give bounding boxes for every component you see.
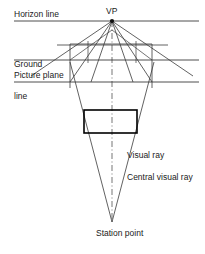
visual-ray-label: Visual ray (127, 150, 164, 161)
vanishing-point-label: VP (106, 6, 117, 17)
vp-ray-right-inner (112, 21, 133, 82)
horizon-line-label: Horizon line (14, 9, 59, 20)
vp-ray-left-inner (91, 21, 112, 82)
visual-ray-left (70, 62, 112, 222)
ground-line-label-row2: line (14, 91, 42, 102)
picture-plane-label: Picture plane (14, 70, 64, 81)
vp-ray-left-outer (70, 21, 112, 82)
visual-ray-right (112, 62, 154, 222)
perspective-diagram: Horizon line VP Ground line Picture plan… (0, 0, 205, 254)
vp-ray-right-outer (112, 21, 152, 82)
ground-line-label-row1: Ground (14, 59, 42, 70)
object-rectangle (84, 110, 137, 133)
central-visual-ray-label: Central visual ray (127, 172, 193, 183)
station-point-label: Station point (96, 228, 143, 239)
vanishing-point-marker (110, 19, 114, 23)
